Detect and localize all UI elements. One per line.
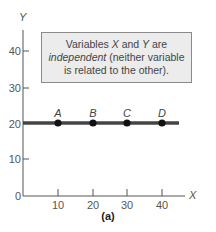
point-d — [158, 119, 165, 126]
figure-caption: (a) — [0, 210, 216, 222]
annotation-line-2: independent (neither variable — [42, 51, 191, 64]
annotation-line-3: is related to the other). — [42, 64, 191, 77]
point-label-c: C — [123, 107, 131, 119]
annotation-line-1: Variables X and Y are — [42, 38, 191, 51]
x-ticks: 10 20 30 40 — [52, 189, 168, 211]
point-label-b: B — [89, 107, 96, 119]
y-tick-40: 40 — [9, 45, 21, 57]
y-tick-30: 30 — [9, 82, 21, 94]
point-a — [54, 119, 61, 126]
point-label-d: D — [158, 107, 166, 119]
y-tick-20: 20 — [9, 118, 21, 130]
x-axis-title: X — [188, 189, 197, 201]
point-label-a: A — [53, 107, 61, 119]
point-b — [89, 119, 96, 126]
y-axis-title: Y — [19, 11, 27, 23]
annotation-box: Variables X and Y are independent (neith… — [41, 32, 192, 83]
point-c — [123, 119, 130, 126]
origin-label: 0 — [15, 190, 21, 202]
y-tick-10: 10 — [9, 153, 21, 165]
